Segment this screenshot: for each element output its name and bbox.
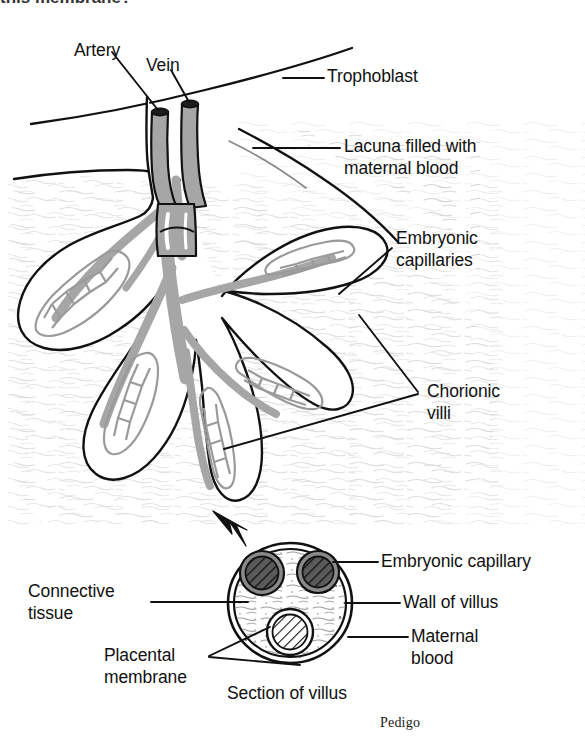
artery-vessel [151,112,176,206]
label-wall-of-villus: Wall of villus [403,592,498,613]
label-lacuna-line2: maternal blood [344,158,458,179]
label-placental-membrane-line1: Placental [104,645,175,666]
label-maternal-blood-line2: blood [411,648,453,669]
label-connective-tissue-line1: Connective [28,581,115,602]
label-connective-tissue-line2: tissue [28,603,73,624]
artery-lumen [152,108,169,115]
label-artery: Artery [74,40,120,61]
villus-cross-section [228,543,352,663]
label-vein: Vein [146,55,180,76]
upper-left-capillary-lumen [246,557,279,590]
label-trophoblast: Trophoblast [327,66,418,87]
vein-lumen [182,100,199,107]
upper-right-capillary-lumen [303,557,334,588]
figure-page: this membrane? [0,0,585,745]
vein-vessel [181,104,206,208]
label-lacuna-line1: Lacuna filled with [344,136,476,157]
label-placental-membrane-line2: membrane [104,667,187,688]
label-embryonic-capillaries-line1: Embryonic [396,228,478,249]
label-embryonic-capillaries-line2: capillaries [396,250,473,271]
label-embryonic-capillary: Embryonic capillary [381,551,531,572]
lower-center-capillary-lumen [273,615,308,650]
illustrator-credit: Pedigo [380,715,420,731]
label-chorionic-villi-line1: Chorionic [427,381,500,402]
placenta-villi-illustration [0,0,585,745]
label-section-of-villus: Section of villus [227,683,347,704]
label-chorionic-villi-line2: villi [427,403,451,424]
label-maternal-blood-line1: Maternal [411,626,478,647]
